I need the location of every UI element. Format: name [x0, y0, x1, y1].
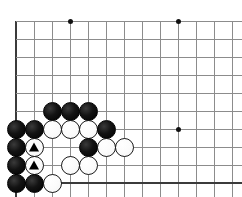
- stone-white[interactable]: [79, 120, 98, 139]
- stone-white-marked-triangle[interactable]: [25, 156, 44, 175]
- stones-layer[interactable]: [0, 0, 242, 197]
- stone-white[interactable]: [97, 138, 116, 157]
- stone-white[interactable]: [115, 138, 134, 157]
- stone-black[interactable]: [97, 120, 116, 139]
- stone-black[interactable]: [79, 102, 98, 121]
- stone-black[interactable]: [25, 174, 44, 193]
- stone-black[interactable]: [7, 120, 26, 139]
- stone-black[interactable]: [25, 120, 44, 139]
- triangle-marker-icon: [29, 143, 39, 152]
- triangle-marker-icon: [29, 161, 39, 170]
- stone-white-marked-triangle[interactable]: [25, 138, 44, 157]
- stone-white[interactable]: [43, 174, 62, 193]
- stone-black[interactable]: [7, 138, 26, 157]
- stone-black[interactable]: [7, 156, 26, 175]
- go-board[interactable]: [0, 0, 242, 197]
- stone-white[interactable]: [61, 120, 80, 139]
- stone-black[interactable]: [79, 138, 98, 157]
- stone-white[interactable]: [43, 120, 62, 139]
- stone-white[interactable]: [79, 156, 98, 175]
- stone-black[interactable]: [43, 102, 62, 121]
- stone-white[interactable]: [61, 156, 80, 175]
- stone-black[interactable]: [7, 174, 26, 193]
- stone-black[interactable]: [61, 102, 80, 121]
